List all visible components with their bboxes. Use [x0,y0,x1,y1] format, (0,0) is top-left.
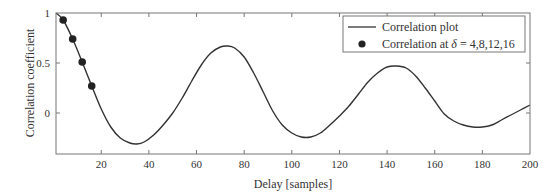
y-axis-label: Correlation coefficient [23,28,37,137]
x-tick-label: 180 [474,158,491,170]
x-tick-label: 200 [522,158,539,170]
legend-label-correlation-markers: Correlation at δ = 4,8,12,16 [382,37,515,51]
correlation-chart: 20406080100120140160180200 00.51 Delay [… [0,0,560,194]
x-tick-label: 80 [239,158,251,170]
x-axis-label: Delay [samples] [254,177,332,191]
x-tick-label: 140 [379,158,396,170]
y-tick-label: 0.5 [36,57,50,69]
x-tick-label: 60 [191,158,203,170]
correlation-marker [88,82,96,90]
correlation-marker [78,58,86,66]
correlation-marker [59,16,67,24]
legend-label-correlation-plot: Correlation plot [382,20,459,34]
x-tick-label: 120 [331,158,348,170]
x-tick-label: 40 [143,158,155,170]
correlation-marker [69,35,77,43]
y-tick-label: 0 [45,107,51,119]
x-tick-label: 160 [426,158,443,170]
legend-marker-swatch [358,40,365,47]
y-tick-label: 1 [45,7,51,19]
x-tick-label: 20 [96,158,108,170]
x-tick-label: 100 [284,158,301,170]
legend: Correlation plot Correlation at δ = 4,8,… [343,16,525,52]
